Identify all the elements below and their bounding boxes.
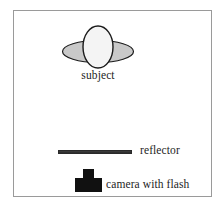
- reflector-bar: [58, 150, 132, 154]
- camera-with-flash-icon: [75, 169, 102, 192]
- reflector-label: reflector: [140, 143, 180, 157]
- figure-plate: subject reflector camera with flash: [0, 0, 223, 212]
- reflector-bar-icon: [58, 148, 132, 156]
- camera-body-shape: [75, 178, 102, 192]
- subject-label: subject: [60, 68, 136, 82]
- subject-head-and-shoulders-icon: [60, 23, 136, 73]
- camera-flash-shape: [83, 169, 94, 178]
- camera-with-flash-label: camera with flash: [106, 177, 189, 191]
- diagram-frame: subject reflector camera with flash: [13, 10, 212, 197]
